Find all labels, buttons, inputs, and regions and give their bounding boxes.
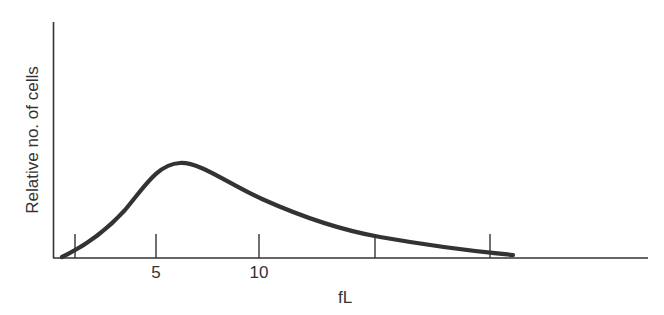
y-axis-label: Relative no. of cells [23,66,43,213]
chart-canvas [0,0,664,315]
distribution-curve [62,163,513,257]
x-tick-label-5: 5 [151,263,160,283]
x-axis-label: fL [338,288,352,308]
x-tick-label-10: 10 [250,263,269,283]
